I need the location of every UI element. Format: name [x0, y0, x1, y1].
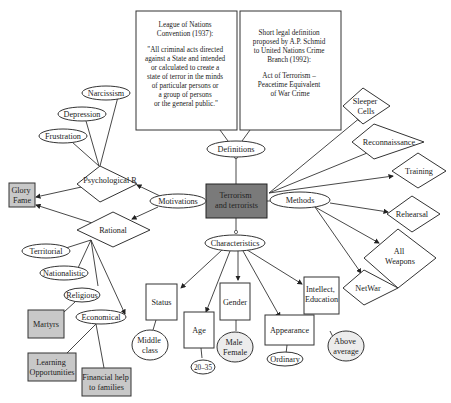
economical-node: Economical [76, 310, 126, 324]
svg-text:Narcissism: Narcissism [88, 89, 125, 98]
svg-text:Financial help to famili: Financial help to families [82, 373, 131, 392]
status-value: Middle class [132, 330, 168, 360]
narcissism-node: Narcissism [82, 86, 130, 100]
age-value: 20–35 [191, 360, 215, 374]
svg-text:NetWar: NetWar [355, 284, 381, 293]
svg-text:Depression: Depression [64, 110, 101, 119]
martyrs-node: Martyrs [28, 310, 64, 338]
svg-text:Motivations: Motivations [158, 197, 198, 206]
definition-league-of-nations: League of Nations Convention (1937): "Al… [136, 11, 237, 130]
svg-text:Rational: Rational [99, 226, 127, 235]
svg-text:Rehearsal: Rehearsal [396, 210, 429, 219]
age-node: Age [184, 312, 214, 348]
territorial-node: Territorial [22, 244, 70, 258]
svg-text:Psychological R: Psychological R [83, 176, 137, 185]
method-reconnaissance: Reconnaissance [352, 124, 424, 159]
svg-text:Frustration: Frustration [45, 132, 81, 141]
svg-text:Terrorism and terrorists: Terrorism and terrorists [215, 191, 258, 210]
motivations-node: Motivations [150, 194, 206, 208]
appearance-value: Ordinary [267, 352, 303, 366]
definition-schmid: Short legal definition proposed by A.P. … [240, 11, 341, 130]
svg-text:Status: Status [151, 298, 171, 307]
svg-text:Above average: Above average [333, 337, 359, 356]
svg-text:Learning Opportunities: Learning Opportunities [29, 358, 74, 377]
svg-text:Nationalistic: Nationalistic [43, 269, 85, 278]
method-training: Training [392, 153, 446, 188]
gender-value: Male Female [217, 332, 253, 362]
intellect-value: Above average [328, 331, 364, 361]
svg-text:Reconnaissance: Reconnaissance [363, 138, 416, 147]
definitions-node: Definitions [207, 141, 265, 157]
central-node: Terrorism and terrorists [206, 184, 267, 218]
svg-text:Territorial: Territorial [29, 247, 63, 256]
svg-text:Definitions: Definitions [218, 145, 255, 154]
method-sleeper-cells: Sleeper Cells [343, 88, 390, 124]
svg-text:Martyrs: Martyrs [33, 320, 59, 329]
nationalistic-node: Nationalistic [40, 266, 88, 280]
svg-text:Age: Age [192, 326, 206, 335]
frustration-node: Frustration [39, 129, 87, 143]
glory-fame-node: Glory Fame [9, 183, 35, 207]
svg-text:20–35: 20–35 [194, 364, 212, 372]
methods-node: Methods [270, 192, 330, 208]
financial-help-node: Financial help to families [82, 368, 131, 396]
svg-text:Economical: Economical [81, 313, 121, 322]
learning-opportunities-node: Learning Opportunities [28, 353, 76, 381]
svg-text:Religious: Religious [66, 291, 97, 300]
status-node: Status [146, 284, 177, 320]
depression-node: Depression [58, 107, 106, 121]
religious-node: Religious [64, 288, 100, 302]
appearance-node: Appearance [265, 315, 314, 345]
svg-text:Intellect, Education: Intellect, Education [305, 285, 338, 304]
psychological-node: Psychological R [77, 166, 137, 202]
method-rehearsal: Rehearsal [387, 196, 440, 232]
rational-node: Rational [77, 212, 150, 247]
svg-text:Methods: Methods [286, 196, 315, 205]
svg-text:Male Female: Male Female [223, 338, 247, 357]
gender-node: Gender [220, 283, 250, 320]
svg-text:Training: Training [405, 167, 433, 176]
characteristics-node: Characteristics [205, 235, 265, 251]
svg-text:Characteristics: Characteristics [211, 239, 260, 248]
svg-text:Ordinary: Ordinary [270, 355, 300, 364]
svg-text:Glory Fame: Glory Fame [11, 186, 32, 205]
svg-text:Gender: Gender [223, 298, 247, 307]
terrorism-concept-diagram: League of Nations Convention (1937): "Al… [0, 0, 451, 403]
svg-text:Appearance: Appearance [270, 326, 309, 335]
intellect-education-node: Intellect, Education [304, 277, 339, 314]
